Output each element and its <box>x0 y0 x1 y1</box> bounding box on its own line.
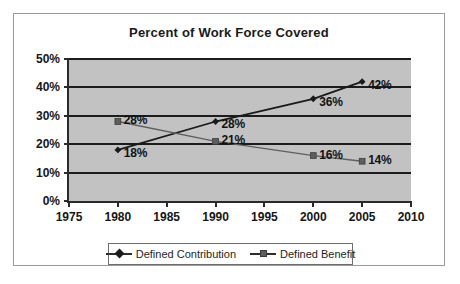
diamond-marker <box>310 95 317 102</box>
x-tick-label: 1985 <box>153 210 180 224</box>
x-tick-label: 1975 <box>56 210 83 224</box>
data-label: 21% <box>222 133 245 147</box>
legend-item-defined-contribution[interactable]: Defined Contribution <box>106 248 236 260</box>
square-marker-icon <box>250 249 276 259</box>
y-tick-label: 40% <box>36 80 60 94</box>
data-label: 36% <box>319 95 342 109</box>
y-tick-label: 50% <box>36 52 60 66</box>
plot-area: 0%10%20%30%40%50% 1975198019851990199520… <box>67 59 411 203</box>
y-tick-label: 10% <box>36 166 60 180</box>
legend-label: Defined Contribution <box>136 248 236 260</box>
chart-title: Percent of Work Force Covered <box>14 25 444 40</box>
data-label: 14% <box>368 153 391 167</box>
diamond-marker <box>212 118 219 125</box>
square-marker <box>310 153 316 159</box>
data-label: 16% <box>319 148 342 162</box>
x-tick-label: 1980 <box>104 210 131 224</box>
y-tick-label: 30% <box>36 109 60 123</box>
x-tick-label: 1995 <box>251 210 278 224</box>
x-tick <box>312 201 314 207</box>
x-tick <box>117 201 119 207</box>
legend-item-defined-benefit[interactable]: Defined Benefit <box>250 248 355 260</box>
legend-label: Defined Benefit <box>280 248 355 260</box>
diamond-marker-icon <box>106 249 132 259</box>
y-tick-label: 0% <box>43 194 60 208</box>
square-marker <box>359 158 365 164</box>
x-tick-label: 1990 <box>202 210 229 224</box>
data-label: 28% <box>222 117 245 131</box>
data-label: 28% <box>124 113 147 127</box>
square-marker <box>115 119 121 125</box>
x-tick-label: 2005 <box>349 210 376 224</box>
data-label: 42% <box>368 78 391 92</box>
x-tick-label: 2010 <box>398 210 425 224</box>
x-tick <box>410 201 412 207</box>
x-tick <box>215 201 217 207</box>
data-label: 18% <box>124 146 147 160</box>
square-marker <box>213 138 219 144</box>
x-tick <box>166 201 168 207</box>
chart-legend: Defined Contribution Defined Benefit <box>108 243 353 265</box>
x-tick <box>361 201 363 207</box>
diamond-marker <box>114 146 121 153</box>
y-tick-label: 20% <box>36 137 60 151</box>
x-tick-label: 2000 <box>300 210 327 224</box>
x-tick <box>68 201 70 207</box>
diamond-marker <box>359 78 366 85</box>
x-tick <box>263 201 265 207</box>
chart-figure: Percent of Work Force Covered 0%10%20%30… <box>13 13 445 266</box>
